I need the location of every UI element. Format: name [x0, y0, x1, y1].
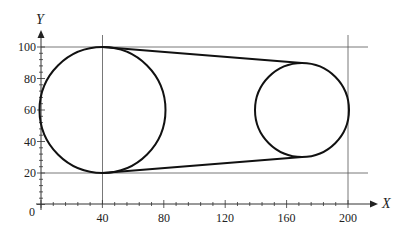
small-circle [255, 63, 349, 157]
y-tick-60: 60 [24, 103, 36, 117]
x-tick-160: 160 [278, 211, 296, 225]
x-axis-arrow-icon [370, 201, 378, 208]
x-tick-200: 200 [339, 211, 357, 225]
origin-label: 0 [29, 205, 35, 219]
shapes [40, 47, 350, 173]
y-tick-20: 20 [24, 166, 36, 180]
x-axis-label: X [381, 196, 391, 211]
y-axis-label: Y [36, 12, 46, 27]
belt-diagram: 40 80 120 160 200 20 40 60 80 100 0 X Y [0, 0, 413, 237]
axes [36, 38, 370, 210]
axis-ticks [37, 47, 348, 208]
x-tick-120: 120 [216, 211, 234, 225]
y-tick-100: 100 [18, 40, 36, 54]
y-tick-40: 40 [24, 135, 36, 149]
tick-labels: 40 80 120 160 200 20 40 60 80 100 0 [18, 40, 357, 225]
x-tick-80: 80 [158, 211, 170, 225]
x-tick-40: 40 [97, 211, 109, 225]
y-tick-80: 80 [24, 72, 36, 86]
y-axis-arrow-icon [38, 30, 45, 38]
guide-lines [41, 35, 368, 204]
